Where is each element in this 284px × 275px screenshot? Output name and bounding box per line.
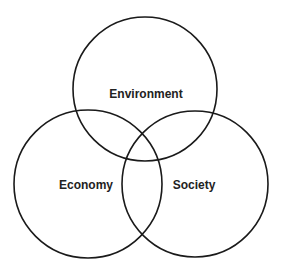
label-environment: Environment bbox=[109, 87, 182, 101]
venn-diagram: Environment Economy Society bbox=[0, 0, 284, 275]
label-economy: Economy bbox=[59, 178, 113, 192]
label-society: Society bbox=[173, 178, 216, 192]
